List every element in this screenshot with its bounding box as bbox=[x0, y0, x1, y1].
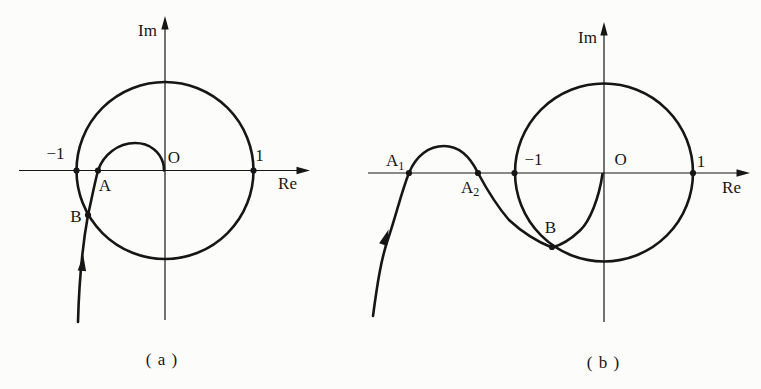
ink-group: Im Re O −1 1 A B ( a ) bbox=[19, 16, 750, 372]
plot-a: Im Re O −1 1 A B ( a ) bbox=[19, 16, 310, 369]
dot-plus-one bbox=[250, 167, 256, 173]
dot-point-a2 bbox=[475, 170, 481, 176]
plus-one-label: 1 bbox=[255, 146, 264, 165]
minus-one-label: −1 bbox=[524, 150, 542, 169]
dot-point-a bbox=[95, 167, 101, 173]
point-a2-label: A2 bbox=[461, 178, 479, 200]
dot-point-b bbox=[549, 244, 555, 250]
nyquist-curve bbox=[78, 143, 164, 322]
re-axis-arrowhead-icon bbox=[297, 167, 311, 174]
im-axis-arrowhead-icon bbox=[600, 22, 607, 36]
dot-point-a1 bbox=[406, 170, 412, 176]
point-a1-base: A bbox=[386, 151, 399, 170]
curve-direction-arrow-icon bbox=[78, 255, 88, 272]
point-a-label: A bbox=[99, 176, 112, 195]
origin-label: O bbox=[615, 150, 627, 169]
caption-a: ( a ) bbox=[146, 350, 178, 369]
plot-b: Im Re O −1 1 A1 A2 B ( b ) bbox=[368, 22, 750, 372]
point-b-label: B bbox=[70, 207, 81, 226]
origin-label: O bbox=[168, 148, 180, 167]
im-axis-arrowhead-icon bbox=[161, 16, 168, 30]
re-axis-label: Re bbox=[278, 174, 297, 193]
im-axis-label: Im bbox=[138, 21, 157, 40]
im-axis-label: Im bbox=[578, 28, 597, 47]
point-a2-sub: 2 bbox=[473, 185, 479, 199]
dot-minus-one bbox=[511, 170, 517, 176]
figure-canvas: Im Re O −1 1 A B ( a ) bbox=[0, 0, 761, 389]
dot-minus-one bbox=[73, 167, 79, 173]
re-axis-label: Re bbox=[722, 178, 741, 197]
dot-point-b bbox=[85, 212, 91, 218]
re-axis-arrowhead-icon bbox=[737, 169, 751, 176]
plus-one-label: 1 bbox=[697, 152, 706, 171]
caption-b: ( b ) bbox=[587, 353, 620, 372]
point-a1-sub: 1 bbox=[398, 159, 404, 173]
point-a1-label: A1 bbox=[386, 151, 404, 173]
dot-plus-one bbox=[690, 170, 696, 176]
point-a2-base: A bbox=[461, 178, 474, 197]
minus-one-label: −1 bbox=[46, 144, 64, 163]
nyquist-diagrams-figure: Im Re O −1 1 A B ( a ) bbox=[0, 0, 761, 389]
point-b-label: B bbox=[545, 218, 556, 237]
